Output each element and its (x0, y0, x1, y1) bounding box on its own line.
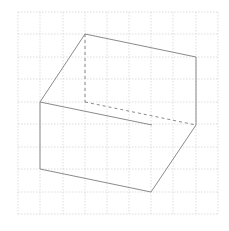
visible-edge (151, 125, 196, 192)
dotted-grid (18, 12, 218, 214)
hidden-edges (85, 34, 196, 125)
visible-edge (40, 169, 151, 192)
hidden-edge (85, 102, 196, 125)
visible-edge (40, 102, 152, 125)
visible-edge (40, 34, 85, 102)
visible-edges (40, 34, 196, 192)
box-diagram (0, 0, 229, 231)
visible-edge (85, 34, 196, 57)
